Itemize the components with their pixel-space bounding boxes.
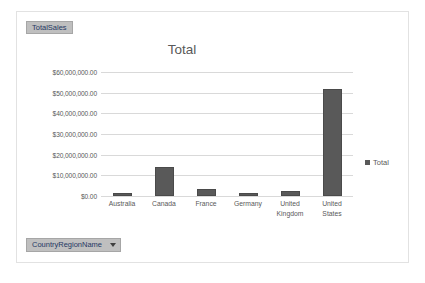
bar-slot <box>101 72 143 196</box>
x-axis-tick-label: France <box>185 199 227 218</box>
bar-slot <box>269 72 311 196</box>
bar-slot <box>185 72 227 196</box>
legend-item-label: Total <box>373 158 389 167</box>
chevron-down-icon[interactable] <box>110 243 116 247</box>
pivot-axis-field-label: CountryRegionName <box>32 241 102 249</box>
x-axis-tick-label: United States <box>311 199 353 218</box>
pivot-values-field-button[interactable]: TotalSales <box>26 21 73 34</box>
pivot-axis-field-button[interactable]: CountryRegionName <box>26 238 121 252</box>
bar[interactable] <box>281 191 300 196</box>
x-axis-tick-label: Germany <box>227 199 269 218</box>
y-axis-tick-label: $60,000,000.00 <box>53 69 97 76</box>
y-axis-tick-label: $0.00 <box>81 193 97 200</box>
bar-slot <box>311 72 353 196</box>
x-axis: AustraliaCanadaFranceGermanyUnited Kingd… <box>101 199 353 218</box>
pivot-chart-frame[interactable]: TotalSales Total $0.00$10,000,000.00$20,… <box>16 11 409 263</box>
y-axis-tick-label: $20,000,000.00 <box>53 151 97 158</box>
bar[interactable] <box>323 89 342 196</box>
pivot-values-field-label: TotalSales <box>32 24 67 32</box>
x-axis-tick-label: United Kingdom <box>269 199 311 218</box>
bar[interactable] <box>197 189 216 196</box>
bar-series <box>101 72 353 196</box>
plot-area <box>101 72 353 197</box>
bar[interactable] <box>239 193 258 196</box>
y-axis: $0.00$10,000,000.00$20,000,000.00$30,000… <box>17 72 97 196</box>
y-axis-tick-label: $50,000,000.00 <box>53 89 97 96</box>
y-axis-tick-label: $30,000,000.00 <box>53 131 97 138</box>
plot-wrapper: $0.00$10,000,000.00$20,000,000.00$30,000… <box>17 72 410 220</box>
bar-slot <box>143 72 185 196</box>
x-axis-tick-label: Canada <box>143 199 185 218</box>
y-axis-tick-label: $40,000,000.00 <box>53 110 97 117</box>
x-axis-tick-label: Australia <box>101 199 143 218</box>
y-axis-tick-label: $10,000,000.00 <box>53 172 97 179</box>
square-marker-icon <box>365 160 370 165</box>
bar-slot <box>227 72 269 196</box>
chart-title: Total <box>17 42 347 57</box>
chart-legend: Total <box>365 158 389 167</box>
bar[interactable] <box>113 193 132 196</box>
bar[interactable] <box>155 167 174 196</box>
